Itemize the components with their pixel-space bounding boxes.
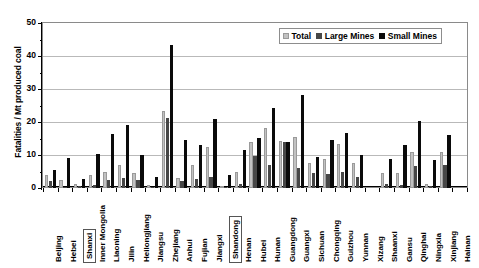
- x-axis-label-qinghai: Qinghai: [419, 231, 428, 263]
- bar: [235, 172, 238, 188]
- legend-item-large-mines: Large Mines: [316, 31, 374, 41]
- x-axis-label-fujian: Fujian: [200, 237, 209, 263]
- x-axis-label-guangxi: Guangxi: [302, 229, 311, 263]
- bar: [132, 173, 135, 188]
- x-axis-label-text: Sichuan: [317, 230, 326, 263]
- bar: [59, 180, 62, 188]
- x-axis-label-shanxi: Shanxi: [83, 229, 96, 263]
- bar: [286, 142, 289, 188]
- y-tick-label: 30: [27, 83, 36, 94]
- x-axis-label-text: Qinghai: [419, 231, 428, 263]
- bar: [403, 145, 406, 188]
- bar-group: [425, 23, 436, 188]
- bar: [96, 154, 99, 188]
- x-axis-label-text: Hubei: [259, 239, 268, 263]
- x-axis-label-anhui: Anhui: [185, 238, 194, 263]
- x-axis-label-liaoning: Liaoning: [112, 228, 121, 263]
- x-axis-label-text: Hebei: [69, 239, 78, 263]
- x-axis-label-shandong: Shandong: [229, 216, 242, 263]
- x-axis-label-text: Shanxi: [83, 229, 96, 263]
- bar: [213, 119, 216, 188]
- bar: [126, 125, 129, 188]
- bar-group: [337, 23, 348, 188]
- bar: [326, 174, 329, 188]
- bar-group: [381, 23, 392, 188]
- bar: [345, 133, 348, 188]
- x-axis-label-jiangsu: Jiangsu: [156, 231, 165, 263]
- legend-item-total: Total: [283, 31, 311, 41]
- x-axis-label-text: Jiangsu: [156, 231, 165, 263]
- bar: [184, 140, 187, 188]
- x-axis-label-hubei: Hubei: [259, 239, 268, 263]
- bar: [82, 179, 85, 188]
- bar: [243, 150, 246, 188]
- bar: [341, 172, 344, 188]
- x-axis-label-henan: Henan: [244, 237, 253, 263]
- bar: [381, 173, 384, 188]
- bar-group: [147, 23, 158, 188]
- fatalities-bar-chart: Fatalities / Mt produced coal 0102030405…: [0, 0, 479, 268]
- x-axis-labels: BeijingHebeiShanxiInner MongoliaLiaoning…: [43, 191, 467, 268]
- bar: [89, 175, 92, 188]
- bar: [352, 163, 355, 188]
- x-axis-label-text: Shandong: [229, 216, 242, 263]
- bar-group: [410, 23, 421, 188]
- x-axis-label-shaanxi: Shaanxi: [390, 230, 399, 263]
- bar: [410, 152, 413, 188]
- bar: [433, 160, 436, 188]
- x-axis-label-yunnan: Yunnan: [361, 232, 370, 263]
- x-axis-label-guizhou: Guizhou: [346, 229, 355, 263]
- x-axis-label-text: Guizhou: [346, 229, 355, 263]
- x-axis-label-inner-mongolia: Inner Mongolia: [98, 204, 107, 263]
- bar: [209, 177, 212, 188]
- bar: [249, 142, 252, 188]
- bar: [136, 180, 139, 188]
- bar: [176, 178, 179, 188]
- x-axis-label-hainan: Hainan: [463, 234, 472, 263]
- bar-group: [323, 23, 334, 188]
- bar: [440, 152, 443, 188]
- x-axis-label-text: Inner Mongolia: [98, 204, 107, 263]
- bar-group: [264, 23, 275, 188]
- bar-group: [279, 23, 290, 188]
- x-axis-label-text: Hainan: [463, 234, 472, 263]
- x-axis-label-text: Ningxia: [434, 232, 443, 263]
- legend: Total Large Mines Small Mines: [279, 28, 442, 44]
- bar: [170, 45, 173, 188]
- x-axis-label-hebei: Hebei: [69, 239, 78, 263]
- y-tick-mark: [38, 188, 42, 189]
- legend-item-small-mines: Small Mines: [379, 31, 437, 41]
- x-axis-label-text: Guangxi: [302, 229, 311, 263]
- y-tick-label: 20: [27, 116, 36, 127]
- x-axis-label-text: Guangdong: [288, 216, 297, 263]
- bar-group: [352, 23, 363, 188]
- x-axis-label-text: Shaanxi: [390, 230, 399, 263]
- legend-swatch-total-icon: [283, 33, 289, 39]
- bar: [140, 155, 143, 188]
- bar: [49, 181, 52, 188]
- legend-label-total: Total: [292, 31, 312, 41]
- bar: [396, 173, 399, 188]
- bar-series-container: [43, 23, 467, 188]
- bar: [107, 180, 110, 188]
- bar: [53, 170, 56, 188]
- bar-group: [103, 23, 114, 188]
- y-tick-label: 40: [27, 50, 36, 61]
- x-axis-label-beijing: Beijing: [54, 234, 63, 263]
- bar: [447, 135, 450, 188]
- x-axis-label-text: Chongqing: [332, 219, 341, 263]
- x-axis-label-text: Fujian: [200, 237, 209, 263]
- bar-group: [293, 23, 304, 188]
- bar: [206, 147, 209, 188]
- bar: [257, 138, 260, 188]
- x-axis-label-jiangxi: Jiangxi: [215, 233, 224, 263]
- bar: [301, 95, 304, 188]
- x-axis-label-hunan: Hunan: [273, 236, 282, 263]
- x-axis-label-zhejiang: Zhejiang: [171, 228, 180, 263]
- bar: [195, 179, 198, 188]
- bar: [360, 155, 363, 188]
- x-axis-label-text: Yunnan: [361, 232, 370, 263]
- bar-group: [132, 23, 143, 188]
- bar: [67, 158, 70, 188]
- x-axis-label-jilin: Jilin: [127, 245, 136, 263]
